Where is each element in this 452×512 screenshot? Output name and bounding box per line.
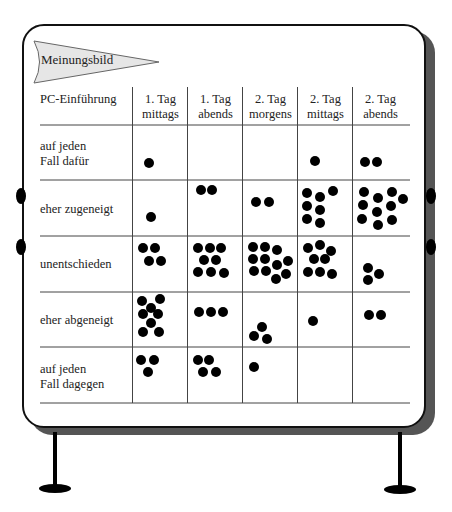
vote-dot bbox=[308, 316, 318, 326]
vote-dot bbox=[283, 256, 293, 266]
vote-dot bbox=[248, 242, 258, 252]
vote-dot bbox=[327, 269, 337, 279]
vote-dot bbox=[207, 185, 217, 195]
vote-dot bbox=[204, 355, 214, 365]
column-header-day: 1. Tag bbox=[133, 92, 188, 107]
vote-dot bbox=[136, 355, 146, 365]
row-label-line: auf jeden bbox=[40, 362, 104, 377]
row-label-line: eher abgeneigt bbox=[40, 313, 113, 328]
left-knob-upper bbox=[16, 188, 26, 204]
vote-dot bbox=[359, 187, 369, 197]
vote-dot bbox=[206, 267, 216, 277]
vote-dot bbox=[373, 220, 383, 230]
vote-dot bbox=[315, 267, 325, 277]
corner-label: PC-Einführung bbox=[40, 92, 116, 107]
vote-dot bbox=[387, 187, 397, 197]
row-label: auf jeden Fall dagegen bbox=[40, 362, 104, 392]
vote-dot bbox=[364, 310, 374, 320]
vote-dot bbox=[260, 254, 270, 264]
vote-dot bbox=[193, 267, 203, 277]
column-header-day: 2. Tag bbox=[243, 92, 298, 107]
vote-dot bbox=[137, 296, 147, 306]
vote-dot bbox=[315, 218, 325, 228]
left-foot bbox=[39, 484, 71, 493]
vote-dot bbox=[357, 214, 367, 224]
vote-dot bbox=[150, 243, 160, 253]
vote-dot bbox=[372, 207, 382, 217]
row-label-line: auf jeden bbox=[40, 139, 89, 154]
vote-dot bbox=[193, 243, 203, 253]
column-header-time: morgens bbox=[243, 107, 298, 122]
right-foot bbox=[384, 485, 416, 494]
column-header-time: mittags bbox=[298, 107, 353, 122]
vote-dot bbox=[315, 205, 325, 215]
column-header: 2. Tag mittags bbox=[298, 92, 353, 122]
column-header: 1. Tag abends bbox=[188, 92, 243, 122]
row-label-line: eher zugeneigt bbox=[40, 202, 113, 217]
row-label: eher zugeneigt bbox=[40, 202, 113, 217]
vote-dot bbox=[249, 331, 259, 341]
column-header: 1. Tag mittags bbox=[133, 92, 188, 122]
vote-dot bbox=[315, 240, 325, 250]
vote-dot bbox=[218, 307, 228, 317]
left-knob-lower bbox=[16, 239, 26, 255]
right-leg bbox=[398, 432, 402, 488]
vote-dot bbox=[199, 255, 209, 265]
vote-dot bbox=[194, 307, 204, 317]
column-header-day: 1. Tag bbox=[188, 92, 243, 107]
vote-dot bbox=[398, 194, 408, 204]
vote-dot bbox=[146, 318, 156, 328]
vote-dot bbox=[138, 309, 148, 319]
vote-dot bbox=[143, 367, 153, 377]
vote-dot bbox=[219, 268, 229, 278]
vote-dot bbox=[302, 201, 312, 211]
vote-dot bbox=[363, 275, 373, 285]
vote-dot bbox=[198, 367, 208, 377]
vote-dot bbox=[373, 193, 383, 203]
vote-dot bbox=[320, 254, 330, 264]
vote-dot bbox=[211, 367, 221, 377]
vote-dot bbox=[249, 266, 259, 276]
row-label: auf jeden Fall dafür bbox=[40, 139, 89, 169]
vote-dot bbox=[302, 214, 312, 224]
vote-dot bbox=[155, 294, 165, 304]
vote-dot bbox=[360, 157, 370, 167]
vote-dot bbox=[272, 245, 282, 255]
vote-dot bbox=[248, 254, 258, 264]
row-label: unentschieden bbox=[40, 257, 112, 272]
vote-dot bbox=[303, 243, 313, 253]
vote-dot bbox=[271, 274, 281, 284]
vote-dot bbox=[205, 243, 215, 253]
column-header-time: abends bbox=[353, 107, 408, 122]
vote-dot bbox=[260, 242, 270, 252]
right-knob-upper bbox=[426, 188, 436, 204]
vote-dot bbox=[309, 254, 319, 264]
vote-dot bbox=[211, 255, 221, 265]
vote-dot bbox=[144, 158, 154, 168]
vote-dot bbox=[144, 256, 154, 266]
vote-dot bbox=[328, 186, 338, 196]
vote-dot bbox=[196, 185, 206, 195]
vote-dot bbox=[257, 322, 267, 332]
vote-dot bbox=[216, 243, 226, 253]
vote-dot bbox=[154, 327, 164, 337]
vote-dot bbox=[153, 309, 163, 319]
vote-dot bbox=[272, 260, 282, 270]
vote-dot bbox=[376, 310, 386, 320]
column-header: 2. Tag abends bbox=[353, 92, 408, 122]
column-header: 2. Tag morgens bbox=[243, 92, 298, 122]
vote-dot bbox=[249, 362, 259, 372]
vote-dot bbox=[146, 212, 156, 222]
vote-dot bbox=[372, 157, 382, 167]
vote-dot bbox=[281, 269, 291, 279]
vote-dot bbox=[264, 197, 274, 207]
row-label-line: unentschieden bbox=[40, 257, 112, 272]
vote-dot bbox=[386, 201, 396, 211]
column-header-time: mittags bbox=[133, 107, 188, 122]
vote-dot bbox=[387, 215, 397, 225]
vote-dot bbox=[302, 188, 312, 198]
vote-dot bbox=[149, 355, 159, 365]
left-leg bbox=[53, 432, 57, 488]
right-knob-lower bbox=[426, 239, 436, 255]
row-label-line: Fall dafür bbox=[40, 154, 89, 169]
